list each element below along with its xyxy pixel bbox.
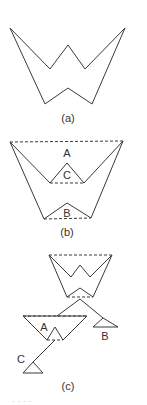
branch-a-c <box>33 340 55 362</box>
label-c: C <box>63 169 71 181</box>
caption-b: (b) <box>60 226 73 238</box>
panel-a: (a) <box>10 28 125 124</box>
hull-edge-a <box>10 141 123 142</box>
w-polygon <box>10 28 125 104</box>
label-a: A <box>63 147 71 159</box>
label-b: B <box>63 207 70 219</box>
node-c-triangle <box>23 362 43 373</box>
polygon-decomposition-diagram: (a) A C B (b) B A C (c) · · · · <box>0 0 147 405</box>
panel-b: A C B (b) <box>10 141 123 238</box>
node-c-label: C <box>17 353 25 365</box>
cut-off-footer-text: · · · · <box>12 396 32 405</box>
node-b-label: B <box>101 330 108 342</box>
panel-c: B A C (c) <box>17 255 118 392</box>
node-a-polygon <box>23 316 87 340</box>
node-a-label: A <box>40 321 48 333</box>
caption-c: (c) <box>62 380 75 392</box>
node-b-triangle <box>93 318 118 327</box>
root-polygon <box>49 255 112 297</box>
tree-branches <box>57 299 103 318</box>
caption-a: (a) <box>61 112 74 124</box>
